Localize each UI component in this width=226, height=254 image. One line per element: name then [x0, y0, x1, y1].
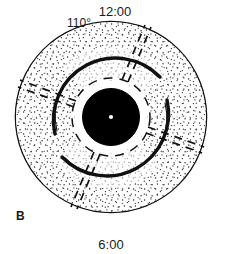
center-fixation-dot: [109, 115, 113, 119]
topography-diagram: 12:00 110° 6:00 B: [0, 0, 226, 254]
label-bottom-clock: 6:00: [98, 237, 123, 252]
figure-container: 12:00 110° 6:00 B: [0, 0, 226, 254]
panel-label: B: [16, 209, 25, 223]
label-top-clock: 12:00: [99, 4, 132, 19]
label-angle: 110°: [67, 16, 91, 30]
